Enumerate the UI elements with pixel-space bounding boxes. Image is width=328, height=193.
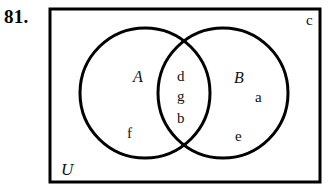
universe-label: U <box>61 161 73 178</box>
set-label-b: B <box>234 70 244 86</box>
venn-diagram-figure: 81. A B U f d g b a e c <box>0 0 328 193</box>
element-d: d <box>177 69 185 84</box>
element-f: f <box>127 126 132 141</box>
element-g: g <box>177 89 185 104</box>
venn-diagram-graphic <box>0 0 328 193</box>
element-a: a <box>255 90 262 105</box>
set-label-a: A <box>133 69 143 85</box>
element-c: c <box>306 13 313 28</box>
element-b: b <box>177 111 185 126</box>
element-e: e <box>235 129 242 144</box>
universal-set-rectangle <box>50 9 320 182</box>
